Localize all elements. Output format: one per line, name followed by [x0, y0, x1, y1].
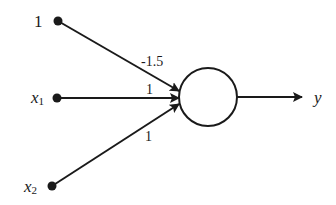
perceptron-diagram: 1 -1.5 x1 1 x2 1 y: [0, 0, 336, 205]
input-node-x2: x2: [23, 177, 57, 196]
edge-x2-to-neuron: [52, 104, 179, 186]
neuron-circle: [179, 68, 237, 126]
weight-label-x1: 1: [146, 82, 153, 97]
input-label-bias: 1: [34, 12, 43, 31]
input-node-x1: x1: [30, 88, 62, 107]
output-label-y: y: [312, 88, 322, 107]
weight-label-bias: -1.5: [141, 54, 163, 69]
weight-label-x2: 1: [145, 129, 152, 144]
input-label-x1: x1: [30, 88, 44, 107]
input-label-x2: x2: [23, 177, 37, 196]
